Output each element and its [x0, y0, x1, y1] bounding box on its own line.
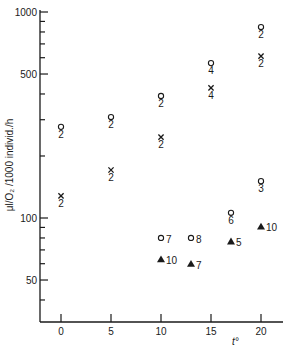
- triangle-point: 5: [227, 237, 242, 248]
- x-ticks: 05101520: [58, 314, 267, 337]
- point-label: 2: [258, 58, 264, 69]
- y-tick-label: 500: [20, 69, 37, 80]
- point-label: 8: [196, 234, 202, 245]
- x-point: 2: [158, 135, 164, 151]
- circle-point: 4: [208, 60, 214, 76]
- circle-point: 6: [228, 210, 234, 226]
- point-label: 7: [166, 234, 172, 245]
- point-label: 7: [196, 260, 202, 271]
- point-label: 2: [108, 172, 114, 183]
- point-label: 3: [258, 183, 264, 194]
- triangle-marker: [257, 223, 265, 230]
- point-label: 2: [58, 198, 64, 209]
- x-point: 2: [58, 193, 64, 209]
- triangle-point: 10: [157, 255, 178, 266]
- y-tick-label: 100: [20, 213, 37, 224]
- circle-point: 7: [158, 234, 172, 245]
- x-tick-label: 20: [255, 326, 267, 337]
- x-point: 2: [258, 53, 264, 69]
- triangle-marker: [227, 238, 235, 245]
- x-tick-label: 5: [108, 326, 114, 337]
- y-tick-label: 1000: [15, 7, 38, 18]
- circle-marker: [158, 235, 163, 240]
- point-label: 2: [158, 98, 164, 109]
- y-axis-title: μl/O₂ /1000 individ./h: [4, 119, 15, 211]
- point-label: 2: [258, 29, 264, 40]
- point-label: 2: [58, 129, 64, 140]
- circle-point: 3: [258, 179, 264, 195]
- y-tick-label: 50: [26, 275, 38, 286]
- point-label: 2: [108, 119, 114, 130]
- circle-point: 2: [58, 124, 64, 140]
- x-tick-label: 10: [155, 326, 167, 337]
- point-label: 4: [208, 90, 214, 101]
- triangle-marker: [157, 256, 165, 263]
- scatter-chart: 100050010050 05101520 222427863222421075…: [0, 0, 290, 352]
- circle-point: 2: [158, 93, 164, 109]
- axes: [40, 10, 283, 322]
- triangle-point: 10: [257, 222, 278, 233]
- x-tick-label: 15: [205, 326, 217, 337]
- x-point: 4: [208, 85, 214, 101]
- point-label: 4: [208, 65, 214, 76]
- triangle-marker: [187, 260, 195, 267]
- circle-point: 2: [108, 114, 114, 130]
- x-axis-title: t°: [232, 336, 239, 347]
- circle-marker: [188, 235, 193, 240]
- circle-point: 2: [258, 24, 264, 40]
- point-label: 10: [266, 222, 278, 233]
- x-tick-label: 0: [58, 326, 64, 337]
- y-ticks: 100050010050: [15, 7, 48, 300]
- circle-point: 8: [188, 234, 202, 245]
- triangle-point: 7: [187, 260, 202, 271]
- point-label: 6: [228, 215, 234, 226]
- x-point: 2: [108, 167, 114, 183]
- point-label: 2: [158, 139, 164, 150]
- data-points: 22242786322242107510: [58, 24, 277, 270]
- point-label: 10: [166, 255, 178, 266]
- point-label: 5: [236, 237, 242, 248]
